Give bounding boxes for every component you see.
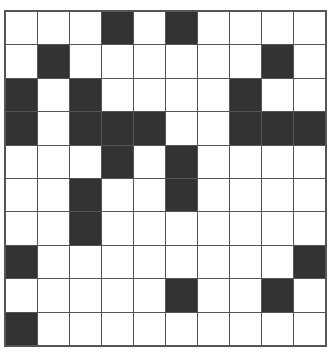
grid-cell-r3-c6[interactable] [198,112,229,144]
grid-cell-r3-c4[interactable] [134,112,165,144]
grid-cell-r8-c5[interactable] [166,279,197,311]
grid-cell-r2-c8[interactable] [262,79,293,111]
grid-cell-r5-c0[interactable] [6,179,37,211]
grid-cell-r3-c0[interactable] [6,112,37,144]
grid-cell-r9-c9[interactable] [294,313,325,345]
grid-cell-r2-c2[interactable] [70,79,101,111]
grid-cell-r1-c2[interactable] [70,45,101,77]
grid-cell-r8-c8[interactable] [262,279,293,311]
grid-cell-r6-c6[interactable] [198,212,229,244]
grid-cell-r1-c7[interactable] [230,45,261,77]
grid-cell-r0-c2[interactable] [70,12,101,44]
grid-cell-r0-c6[interactable] [198,12,229,44]
grid-cell-r0-c4[interactable] [134,12,165,44]
grid-cell-r6-c2[interactable] [70,212,101,244]
grid-cell-r7-c6[interactable] [198,246,229,278]
grid-cell-r6-c8[interactable] [262,212,293,244]
grid-cell-r4-c5[interactable] [166,146,197,178]
grid-cell-r4-c1[interactable] [38,146,69,178]
grid-cell-r2-c5[interactable] [166,79,197,111]
grid-cell-r6-c1[interactable] [38,212,69,244]
grid-cell-r2-c4[interactable] [134,79,165,111]
grid-cell-r7-c9[interactable] [294,246,325,278]
grid-cell-r4-c0[interactable] [6,146,37,178]
grid-cell-r9-c8[interactable] [262,313,293,345]
grid-cell-r6-c4[interactable] [134,212,165,244]
grid-cell-r6-c5[interactable] [166,212,197,244]
grid-cell-r2-c6[interactable] [198,79,229,111]
grid-cell-r3-c2[interactable] [70,112,101,144]
grid-cell-r2-c3[interactable] [102,79,133,111]
grid-cell-r3-c5[interactable] [166,112,197,144]
grid-cell-r0-c1[interactable] [38,12,69,44]
grid-cell-r4-c2[interactable] [70,146,101,178]
grid-cell-r9-c2[interactable] [70,313,101,345]
grid-cell-r3-c7[interactable] [230,112,261,144]
grid-cell-r7-c3[interactable] [102,246,133,278]
grid-cell-r7-c4[interactable] [134,246,165,278]
grid-cell-r9-c1[interactable] [38,313,69,345]
grid-cell-r6-c7[interactable] [230,212,261,244]
grid-cell-r7-c5[interactable] [166,246,197,278]
grid-cell-r6-c0[interactable] [6,212,37,244]
grid-cell-r4-c6[interactable] [198,146,229,178]
grid-cell-r5-c7[interactable] [230,179,261,211]
grid-cell-r5-c3[interactable] [102,179,133,211]
grid-cell-r9-c6[interactable] [198,313,229,345]
grid-cell-r3-c8[interactable] [262,112,293,144]
grid-cell-r1-c3[interactable] [102,45,133,77]
grid-cell-r8-c7[interactable] [230,279,261,311]
grid-cell-r0-c3[interactable] [102,12,133,44]
grid-cell-r4-c9[interactable] [294,146,325,178]
grid-cell-r9-c0[interactable] [6,313,37,345]
grid-cell-r9-c7[interactable] [230,313,261,345]
grid-cell-r7-c0[interactable] [6,246,37,278]
grid-cell-r5-c9[interactable] [294,179,325,211]
grid-cell-r2-c9[interactable] [294,79,325,111]
grid-cell-r4-c8[interactable] [262,146,293,178]
grid-cell-r7-c7[interactable] [230,246,261,278]
grid-cell-r0-c5[interactable] [166,12,197,44]
grid-cell-r1-c5[interactable] [166,45,197,77]
grid-cell-r8-c2[interactable] [70,279,101,311]
grid-cell-r0-c0[interactable] [6,12,37,44]
grid-cell-r5-c2[interactable] [70,179,101,211]
grid-cell-r9-c4[interactable] [134,313,165,345]
grid-cell-r5-c8[interactable] [262,179,293,211]
grid-cell-r8-c6[interactable] [198,279,229,311]
grid-cell-r4-c3[interactable] [102,146,133,178]
grid-cell-r4-c7[interactable] [230,146,261,178]
grid-cell-r7-c2[interactable] [70,246,101,278]
grid-cell-r0-c9[interactable] [294,12,325,44]
grid-cell-r5-c4[interactable] [134,179,165,211]
grid-cell-r6-c9[interactable] [294,212,325,244]
grid-cell-r7-c8[interactable] [262,246,293,278]
grid-cell-r5-c5[interactable] [166,179,197,211]
grid-cell-r8-c4[interactable] [134,279,165,311]
grid-cell-r7-c1[interactable] [38,246,69,278]
grid-cell-r1-c4[interactable] [134,45,165,77]
grid-cell-r3-c9[interactable] [294,112,325,144]
grid-cell-r1-c9[interactable] [294,45,325,77]
grid-cell-r0-c8[interactable] [262,12,293,44]
grid-cell-r6-c3[interactable] [102,212,133,244]
grid-cell-r2-c7[interactable] [230,79,261,111]
grid-cell-r8-c0[interactable] [6,279,37,311]
grid-cell-r3-c1[interactable] [38,112,69,144]
grid-cell-r2-c1[interactable] [38,79,69,111]
grid-cell-r9-c3[interactable] [102,313,133,345]
grid-cell-r8-c1[interactable] [38,279,69,311]
grid-cell-r1-c0[interactable] [6,45,37,77]
grid-cell-r9-c5[interactable] [166,313,197,345]
grid-cell-r2-c0[interactable] [6,79,37,111]
grid-cell-r1-c8[interactable] [262,45,293,77]
grid-cell-r3-c3[interactable] [102,112,133,144]
grid-cell-r8-c9[interactable] [294,279,325,311]
grid-cell-r1-c6[interactable] [198,45,229,77]
grid-cell-r4-c4[interactable] [134,146,165,178]
grid-cell-r0-c7[interactable] [230,12,261,44]
grid-cell-r8-c3[interactable] [102,279,133,311]
grid-cell-r1-c1[interactable] [38,45,69,77]
grid-cell-r5-c6[interactable] [198,179,229,211]
grid-cell-r5-c1[interactable] [38,179,69,211]
